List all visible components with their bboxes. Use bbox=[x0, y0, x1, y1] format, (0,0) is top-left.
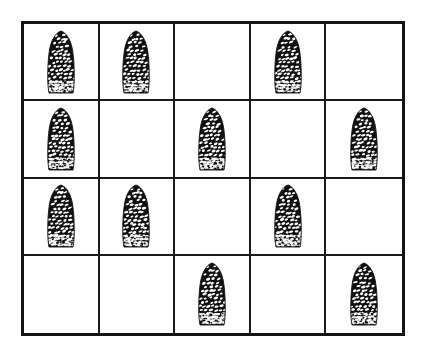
pinecone-icon bbox=[190, 107, 234, 171]
figure-canvas bbox=[0, 0, 424, 355]
grid-cell-r3c5 bbox=[326, 179, 402, 256]
pinecone-icon bbox=[190, 262, 234, 326]
grid-cell-r1c2 bbox=[100, 24, 176, 101]
pinecone-icon bbox=[114, 30, 158, 94]
pinecone-icon bbox=[342, 262, 386, 326]
grid-cell-r3c4 bbox=[251, 179, 327, 256]
pinecone-icon bbox=[39, 184, 83, 248]
grid-cell-r1c3 bbox=[175, 24, 251, 101]
pinecone-icon bbox=[266, 184, 310, 248]
grid-cell-r4c3 bbox=[175, 256, 251, 333]
grid-cell-r2c2 bbox=[100, 101, 176, 178]
grid-cell-r1c4 bbox=[251, 24, 327, 101]
grid-cell-r2c3 bbox=[175, 101, 251, 178]
grid-cell-r4c2 bbox=[100, 256, 176, 333]
grid-cell-r2c1 bbox=[24, 101, 100, 178]
grid-cell-r4c1 bbox=[24, 256, 100, 333]
pinecone-icon bbox=[39, 30, 83, 94]
grid-cell-r2c4 bbox=[251, 101, 327, 178]
grid-cell-r1c1 bbox=[24, 24, 100, 101]
grid-cell-r4c4 bbox=[251, 256, 327, 333]
pinecone-icon bbox=[266, 30, 310, 94]
grid-cell-r4c5 bbox=[326, 256, 402, 333]
grid-cell-r3c1 bbox=[24, 179, 100, 256]
grid-cell-r3c3 bbox=[175, 179, 251, 256]
pinecone-icon bbox=[342, 107, 386, 171]
pinecone-icon bbox=[39, 107, 83, 171]
pinecone-grid bbox=[21, 21, 405, 336]
grid-cell-r3c2 bbox=[100, 179, 176, 256]
pinecone-icon bbox=[114, 184, 158, 248]
grid-cell-r2c5 bbox=[326, 101, 402, 178]
grid-cell-r1c5 bbox=[326, 24, 402, 101]
